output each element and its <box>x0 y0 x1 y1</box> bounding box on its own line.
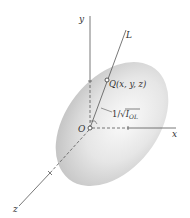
y-axis-label: y <box>78 14 85 24</box>
line-L-label: L <box>125 30 132 40</box>
point-Q-label: Q(x, y, z) <box>109 79 146 89</box>
x-axis-label: x <box>172 129 177 139</box>
z-axis-label: z <box>12 204 18 214</box>
z-axis <box>19 173 50 206</box>
ellipsoid-diagram: y L Q(x, y, z) O x z 1/√IOL <box>0 0 190 218</box>
diagram-canvas: y L Q(x, y, z) O x z 1/√IOL <box>0 0 190 218</box>
point-O <box>88 126 92 130</box>
ellipsoid <box>33 41 190 208</box>
origin-label: O <box>78 124 86 134</box>
